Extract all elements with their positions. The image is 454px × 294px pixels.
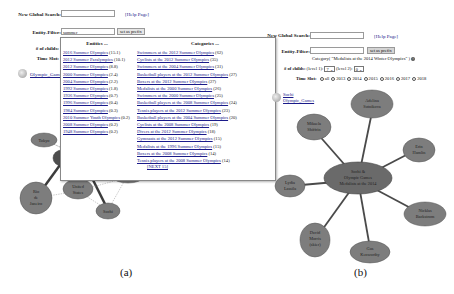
graph-node-united-states[interactable]: United States bbox=[63, 179, 93, 199]
category-suggestion-link[interactable]: Boxers at the 2012 Summer Olympics bbox=[137, 79, 207, 84]
global-search-input[interactable] bbox=[61, 10, 115, 17]
category-suggestion[interactable]: Medalists at the 2000 Summer Olympics (2… bbox=[137, 85, 273, 92]
entity-suggestion-link[interactable]: 2016 Summer Olympics bbox=[63, 50, 108, 55]
entity-suggestion[interactable]: 1948 Summer Olympics (0.2) bbox=[63, 128, 131, 135]
category-suggestion[interactable]: Boxers at the 2008 Summer Olympics (14) bbox=[137, 150, 273, 157]
category-suggestion[interactable]: Medalists at the 1996 Summer Olympics (1… bbox=[137, 143, 273, 150]
help-page-link-b[interactable]: [Help Page] bbox=[374, 34, 398, 39]
entity-suggestion[interactable]: 1936 Summer Olympics (0.7) bbox=[63, 92, 131, 99]
radio-button-icon[interactable] bbox=[347, 77, 351, 81]
category-suggestion-link[interactable]: Cyclists at the 2008 Summer Olympics bbox=[137, 122, 209, 127]
graph-node-tokyo[interactable]: Tokyo bbox=[31, 133, 57, 147]
category-suggestion[interactable]: Basketball players at the 2008 Summer Ol… bbox=[137, 99, 273, 106]
category-suggestion-link[interactable]: Swimmers at the 2012 Summer Olympics bbox=[137, 50, 214, 55]
graph-node-adelina-sotnikova[interactable]: Adelina Sotnikova bbox=[351, 90, 393, 118]
category-suggestion-link[interactable]: Basketball players at the 2008 Summer Ol… bbox=[137, 100, 228, 105]
remove-category-icon[interactable]: × bbox=[411, 57, 415, 61]
entity-suggestion[interactable]: 2004 Summer Olympics (2.2) bbox=[63, 78, 131, 85]
time-slot-option[interactable]: 2014 bbox=[345, 76, 361, 81]
level2-select[interactable]: 0 ⌄ bbox=[354, 66, 364, 72]
entity-suggestion-link[interactable]: 1992 Summer Olympics bbox=[63, 86, 108, 91]
radio-button-icon[interactable] bbox=[331, 77, 335, 81]
graph-node-mikaela-shiffrin[interactable]: Mikaela Shiffrin bbox=[297, 114, 331, 140]
entity-suggestion-link[interactable]: 2012 Summer Olympics bbox=[63, 64, 108, 69]
entity-filter-input[interactable]: summer bbox=[61, 28, 115, 35]
breadcrumb-sochi[interactable]: Sochi bbox=[283, 92, 293, 97]
category-suggestion[interactable]: Cyclists at the 2012 Summer Olympics (35… bbox=[137, 56, 273, 63]
entity-suggestion[interactable]: 1984 Summer Olympics (0.3) bbox=[63, 107, 131, 114]
entity-suggestion-link[interactable]: 2012 Summer Paralympics bbox=[63, 57, 113, 62]
entity-suggestion[interactable]: 2008 Summer Olympics (0.2) bbox=[63, 121, 131, 128]
category-suggestion-link[interactable]: Medalists at the 1996 Summer Olympics bbox=[137, 144, 212, 149]
entity-suggestion-link[interactable]: 1984 Summer Olympics bbox=[63, 108, 108, 113]
category-suggestion-link[interactable]: Tennis players at the 2012 Summer Olympi… bbox=[137, 108, 221, 113]
entity-suggestion-link[interactable]: 1948 Summer Olympics bbox=[63, 129, 108, 134]
time-slot-option[interactable]: 2015 bbox=[362, 76, 378, 81]
graph-node-david-morris[interactable]: David Morris (skier) bbox=[300, 223, 330, 257]
breadcrumb-olympic-games[interactable]: Olympic_Games bbox=[283, 98, 314, 103]
category-suggestion[interactable]: Swimmers at the 2004 Summer Olympics (31… bbox=[137, 63, 273, 70]
category-suggestion-link[interactable]: Gymnasts at the 2012 Summer Olympics bbox=[137, 136, 213, 141]
time-slot-option[interactable]: 2016 bbox=[378, 76, 394, 81]
entity-suggestion[interactable]: 1992 Summer Olympics (1.8) bbox=[63, 85, 131, 92]
category-suggestion[interactable]: Basketball players at the 2004 Summer Ol… bbox=[137, 114, 273, 121]
category-suggestion-link[interactable]: Swimmers at the 2000 Summer Olympics bbox=[137, 93, 214, 98]
entity-suggestion-link[interactable]: 1996 Summer Olympics bbox=[63, 100, 108, 105]
graph-node-nicklas-backstrom[interactable]: Nicklas Backstrom bbox=[404, 202, 446, 226]
time-slot-option[interactable]: 2017 bbox=[394, 76, 410, 81]
category-suggestion-link[interactable]: Medalists at the 2000 Summer Olympics bbox=[137, 86, 212, 91]
graph-node-lydia-lassila[interactable]: Lydia Lassila bbox=[275, 175, 305, 197]
entity-filter-input-b[interactable] bbox=[310, 47, 364, 54]
category-suggestion[interactable]: Boxers at the 2012 Summer Olympics (27) bbox=[137, 78, 273, 85]
radio-button-icon[interactable] bbox=[320, 77, 324, 81]
next-page-link[interactable]: [NEXT 15] bbox=[147, 164, 273, 169]
entity-suggestion-link[interactable]: 2008 Summer Olympics bbox=[63, 122, 108, 127]
radio-button-icon[interactable] bbox=[412, 77, 416, 81]
category-suggestion[interactable]: Gymnasts at the 2012 Summer Olympics (15… bbox=[137, 135, 273, 142]
entity-suggestion[interactable]: 2012 Summer Olympics (8.8) bbox=[63, 63, 131, 70]
entity-suggestion-link[interactable]: 1936 Summer Olympics bbox=[63, 93, 108, 98]
category-suggestion-link[interactable]: Boxers at the 2008 Summer Olympics bbox=[137, 151, 207, 156]
category-suggestion-link[interactable]: Divers at the 2012 Summer Olympics bbox=[137, 129, 207, 134]
category-suggestion[interactable]: Cyclists at the 2008 Summer Olympics (19… bbox=[137, 121, 273, 128]
time-slot-option[interactable]: all bbox=[318, 76, 330, 81]
category-suggestion[interactable]: Divers at the 2012 Summer Olympics (18) bbox=[137, 128, 273, 135]
category-suggestion[interactable]: Swimmers at the 2000 Summer Olympics (25… bbox=[137, 92, 273, 99]
root-breadcrumb-link[interactable]: Olympic_Games bbox=[30, 72, 64, 77]
category-suggestion[interactable]: Swimmers at the 2012 Summer Olympics (62… bbox=[137, 49, 273, 56]
radio-button-icon[interactable] bbox=[364, 77, 368, 81]
radio-button-icon[interactable] bbox=[396, 77, 400, 81]
set-as-prefix-button-b[interactable]: set as prefix bbox=[367, 47, 395, 54]
category-suggestion-link[interactable]: Basketball players at the 2012 Summer Ol… bbox=[137, 72, 228, 77]
svg-text:Kenworthy: Kenworthy bbox=[360, 252, 380, 257]
set-as-prefix-button[interactable]: set as prefix bbox=[117, 28, 145, 35]
global-search-input-b[interactable] bbox=[310, 32, 364, 39]
autocomplete-dropdown: Entities ... 2016 Summer Olympics (15.1)… bbox=[60, 37, 276, 181]
graph-node-sochi[interactable]: Sochi bbox=[96, 203, 120, 219]
level1-select[interactable]: 7 ⌄ bbox=[324, 66, 334, 72]
graph-node-center[interactable]: Sochi & Olympic Games Medalists at the 2… bbox=[324, 162, 392, 194]
category-suggestion-link[interactable]: Cyclists at the 2012 Summer Olympics bbox=[137, 57, 209, 62]
svg-text:Adelina: Adelina bbox=[365, 98, 379, 103]
time-slot-option[interactable]: 2013 bbox=[329, 76, 345, 81]
entity-suggestion-link[interactable]: 2000 Summer Olympics bbox=[63, 72, 108, 77]
entity-suggestion[interactable]: 2016 Summer Olympics (15.1) bbox=[63, 49, 131, 56]
time-slot-option[interactable]: 2018 bbox=[410, 76, 426, 81]
category-suggestion[interactable]: Tennis players at the 2012 Summer Olympi… bbox=[137, 107, 273, 114]
category-suggestion-link[interactable]: Basketball players at the 2004 Summer Ol… bbox=[137, 115, 228, 120]
category-suggestion[interactable]: Basketball players at the 2012 Summer Ol… bbox=[137, 71, 273, 78]
entity-suggestion[interactable]: 2012 Summer Paralympics (10.1) bbox=[63, 56, 131, 63]
category-suggestion-link[interactable]: Swimmers at the 2004 Summer Olympics bbox=[137, 64, 214, 69]
graph-node-erin-hamlin[interactable]: Erin Hamlin bbox=[403, 138, 435, 162]
category-suggestion-link[interactable]: Tennis players at the 2008 Summer Olympi… bbox=[137, 158, 221, 163]
entity-suggestion-link[interactable]: 2004 Summer Olympics bbox=[63, 79, 108, 84]
entity-suggestion-link[interactable]: 2010 Summer Youth Olympics bbox=[63, 115, 120, 120]
radio-button-icon[interactable] bbox=[380, 77, 384, 81]
entity-suggestion[interactable]: 1996 Summer Olympics (0.4) bbox=[63, 99, 131, 106]
graph-node-gus-kenworthy[interactable]: Gus Kenworthy bbox=[350, 241, 390, 263]
help-page-link[interactable]: [Help Page] bbox=[125, 12, 149, 17]
category-suggestion[interactable]: Tennis players at the 2008 Summer Olympi… bbox=[137, 157, 273, 164]
graph-node-rio[interactable]: Rio de Janeiro bbox=[20, 182, 52, 214]
entity-suggestion[interactable]: 2000 Summer Olympics (2.4) bbox=[63, 71, 131, 78]
entity-suggestion[interactable]: 2010 Summer Youth Olympics (0.2) bbox=[63, 114, 131, 121]
